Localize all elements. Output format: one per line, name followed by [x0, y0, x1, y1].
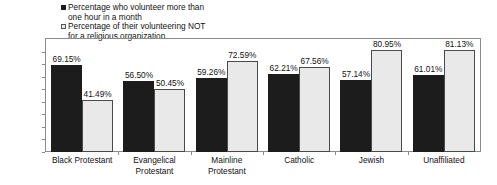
bar-value-label: 80.95% — [365, 39, 408, 49]
bar — [154, 89, 185, 152]
x-axis: Black ProtestantEvangelical ProtestantMa… — [46, 155, 480, 185]
x-axis-tick-mark — [191, 152, 192, 155]
bar — [196, 78, 227, 152]
bar-group: 59.26%72.59% — [191, 39, 263, 152]
bar — [123, 81, 154, 152]
bar — [413, 75, 444, 152]
bar — [51, 65, 82, 152]
bar-group: 61.01%81.13% — [408, 39, 480, 152]
bar-chart-figure: Percentage who volunteer more than one h… — [0, 0, 497, 185]
bar-group: 56.50%50.45% — [118, 39, 190, 152]
x-axis-tick-mark — [263, 152, 264, 155]
bar — [82, 100, 113, 152]
bar — [444, 50, 475, 152]
y-axis-tick-mark — [42, 152, 45, 153]
bar-value-label: 69.15% — [45, 54, 88, 64]
bar-group: 62.21%67.56% — [263, 39, 335, 152]
bar — [299, 67, 330, 152]
bar-value-label: 41.49% — [76, 89, 119, 99]
x-axis-tick-mark — [335, 152, 336, 155]
bars-container: 69.15%41.49%56.50%50.45%59.26%72.59%62.2… — [46, 39, 480, 152]
bar — [340, 80, 371, 152]
x-axis-category-label: Unaffiliated — [400, 155, 488, 166]
x-axis-tick-mark — [408, 152, 409, 155]
bar-value-label: 72.59% — [221, 50, 264, 60]
bar — [227, 61, 258, 152]
bar-value-label: 81.13% — [438, 39, 481, 49]
bar-group: 69.15%41.49% — [46, 39, 118, 152]
bar — [268, 74, 299, 152]
bar — [371, 50, 402, 152]
bar-value-label: 50.45% — [148, 78, 191, 88]
x-axis-tick-mark — [118, 152, 119, 155]
bar-value-label: 67.56% — [293, 56, 336, 66]
bar-group: 57.14%80.95% — [335, 39, 407, 152]
